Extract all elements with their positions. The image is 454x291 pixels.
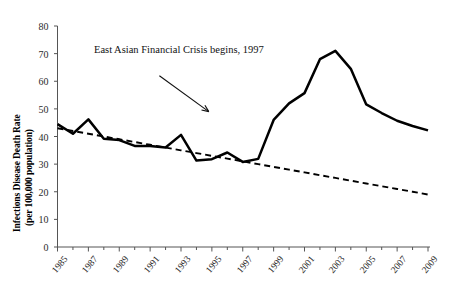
annotation-arrow bbox=[159, 76, 208, 112]
chart-container: Infections Disease Death Rate (per 100,0… bbox=[0, 0, 454, 291]
plot-area bbox=[0, 0, 454, 291]
data-series bbox=[58, 51, 429, 195]
arrow-shaft bbox=[159, 76, 208, 112]
axes-lines bbox=[58, 26, 431, 247]
data-line bbox=[58, 51, 429, 162]
